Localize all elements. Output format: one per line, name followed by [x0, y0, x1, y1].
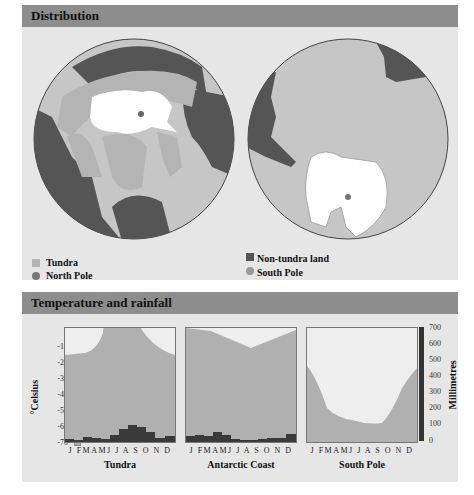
- south-pole-dot-icon: [246, 267, 254, 275]
- chart-tundra: [64, 327, 176, 443]
- south-pole-months: J FMAMJ J A S O N D: [306, 446, 418, 455]
- south-pole-title: South Pole: [306, 459, 418, 470]
- distribution-header: Distribution: [22, 5, 458, 27]
- millimetres-axis-bar: [419, 327, 424, 441]
- legend-south-pole: South Pole: [257, 267, 303, 278]
- antarctic-coast-title: Antarctic Coast: [185, 459, 297, 470]
- temperature-title: Temperature and rainfall: [31, 295, 172, 311]
- north-pole-map: [32, 37, 236, 241]
- temperature-panel: °Celsius 0 -10 -20 -30 -40 -50 -60 -70 J…: [22, 314, 458, 482]
- mm-tick: 700: [429, 323, 451, 332]
- distribution-panel: Tundra North Pole Non-tundra land South …: [22, 27, 458, 280]
- tundra-months: J FMAMJ J A S O N D: [64, 446, 176, 455]
- mm-tick: 0: [429, 436, 451, 445]
- distribution-title: Distribution: [31, 8, 99, 24]
- celsius-axis-label: °Celsius: [29, 375, 40, 415]
- tundra-swatch: [32, 259, 40, 267]
- antarctic-coast-months: J FMAMJ J A S O N D: [185, 446, 297, 455]
- mm-tick: 100: [429, 419, 451, 428]
- chart-antarctic-coast: [185, 327, 297, 443]
- north-pole-dot-icon: [32, 272, 40, 280]
- non-tundra-swatch: [246, 253, 254, 261]
- legend-non-tundra: Non-tundra land: [257, 253, 329, 264]
- millimetres-axis-label: Millimetres: [447, 350, 458, 410]
- chart-south-pole: [306, 327, 418, 443]
- legend-tundra: Tundra: [46, 257, 78, 268]
- mm-tick: 600: [429, 339, 451, 348]
- legend-north-pole: North Pole: [46, 270, 92, 281]
- south-pole-map: [246, 37, 450, 241]
- temperature-header: Temperature and rainfall: [22, 292, 458, 314]
- tundra-title: Tundra: [64, 459, 176, 470]
